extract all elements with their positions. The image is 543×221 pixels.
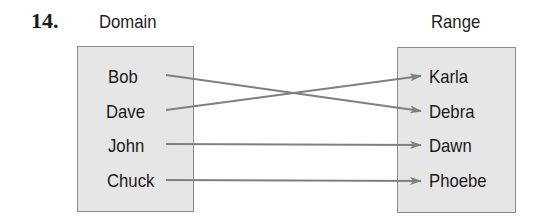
- arrow-chuck-to-phoebe: [166, 180, 421, 181]
- arrow-john-to-dawn: [166, 144, 421, 145]
- mapping-arrows: [0, 0, 543, 221]
